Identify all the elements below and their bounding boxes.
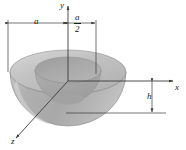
dimension-label-a-over-2: a 2 xyxy=(74,13,81,34)
z-axis-label: z xyxy=(11,137,15,146)
dimension-label-h: h xyxy=(147,92,152,101)
dimension-label-a-over-2-denominator: 2 xyxy=(74,25,81,34)
dimension-label-a-over-2-numerator: a xyxy=(74,13,81,22)
y-axis-label: y xyxy=(60,1,64,10)
dimension-label-a: a xyxy=(34,17,39,26)
figure-container: y x z a a 2 h xyxy=(0,0,186,150)
hemispherical-bowl-diagram xyxy=(0,0,186,150)
x-axis-label: x xyxy=(175,83,179,92)
